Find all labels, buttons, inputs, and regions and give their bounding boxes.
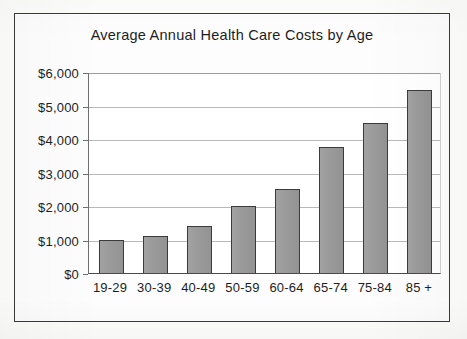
- chart-title: Average Annual Health Care Costs by Age: [15, 27, 449, 43]
- y-axis-tick-label: $6,000: [15, 66, 79, 81]
- chart-frame: Average Annual Health Care Costs by Age …: [14, 13, 450, 322]
- bar-75-84: [363, 123, 388, 273]
- y-axis-tick-label: $1,000: [15, 233, 79, 248]
- bar-50-59: [231, 206, 256, 273]
- y-axis-tick-mark: [83, 107, 88, 108]
- x-axis-tick-label: 30-39: [137, 280, 171, 295]
- y-axis-tick-label: $3,000: [15, 166, 79, 181]
- y-axis-tick-mark: [83, 73, 88, 74]
- y-axis-tick-mark: [83, 207, 88, 208]
- x-axis-tick-label: 75-84: [358, 280, 392, 295]
- bar-85-plus: [407, 90, 432, 273]
- y-axis-tick-label: $5,000: [15, 99, 79, 114]
- x-axis-tick-label: 85 +: [406, 280, 432, 295]
- x-axis-tick-label: 50-59: [225, 280, 259, 295]
- x-axis-tick-label: 19-29: [93, 280, 127, 295]
- bar-60-64: [275, 189, 300, 273]
- bar-19-29: [99, 240, 124, 274]
- bar-series: [89, 73, 440, 273]
- y-axis-tick-label: $4,000: [15, 133, 79, 148]
- y-axis-tick-label: $2,000: [15, 200, 79, 215]
- y-axis-tick-mark: [83, 241, 88, 242]
- x-axis: 19-2930-3940-4950-5960-6465-7475-8485 +: [88, 280, 441, 304]
- y-axis-tick-mark: [83, 140, 88, 141]
- bar-30-39: [143, 236, 168, 273]
- bar-40-49: [187, 226, 212, 273]
- y-axis-tick-mark: [83, 274, 88, 275]
- x-axis-tick-label: 40-49: [181, 280, 215, 295]
- x-axis-tick-label: 65-74: [314, 280, 348, 295]
- y-axis-tick-mark: [83, 174, 88, 175]
- y-axis-tick-label: $0: [15, 267, 79, 282]
- plot-area: [88, 73, 441, 274]
- x-axis-tick-label: 60-64: [269, 280, 303, 295]
- bar-65-74: [319, 147, 344, 273]
- scanned-page: Average Annual Health Care Costs by Age …: [0, 0, 467, 339]
